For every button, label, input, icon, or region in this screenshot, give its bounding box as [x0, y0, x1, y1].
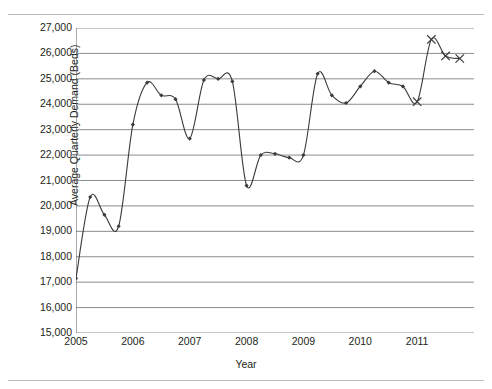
y-tick-label: 27,000	[20, 22, 72, 33]
y-tick-label: 22,000	[20, 149, 72, 160]
data-point-actual	[88, 195, 92, 199]
data-point-actual	[301, 153, 305, 157]
x-tick-label: 2010	[340, 336, 380, 347]
top-divider-rule	[8, 14, 484, 15]
y-tick-label: 23,000	[20, 124, 72, 135]
data-point-actual	[76, 276, 78, 280]
data-point-actual	[117, 224, 121, 228]
data-point-actual	[372, 69, 376, 73]
y-tick-label: 26,000	[20, 47, 72, 58]
x-tick-label: 2009	[283, 336, 323, 347]
y-tick-label: 17,000	[20, 276, 72, 287]
chart-figure: 27,00026,00025,00024,00023,00022,00021,0…	[0, 0, 492, 389]
x-tick-label: 2008	[227, 336, 267, 347]
gridlines	[76, 28, 474, 333]
data-point-actual	[287, 156, 291, 160]
x-axis-title: Year	[0, 358, 492, 370]
data-point-actual	[230, 79, 234, 83]
y-tick-label: 20,000	[20, 200, 72, 211]
x-tick-label: 2007	[170, 336, 210, 347]
data-point-actual	[244, 183, 248, 187]
series-markers	[76, 35, 464, 280]
y-tick-label: 18,000	[20, 251, 72, 262]
data-point-forecast	[427, 35, 435, 43]
x-tick-label: 2006	[113, 336, 153, 347]
data-point-actual	[131, 122, 135, 126]
y-tick-label: 16,000	[20, 302, 72, 313]
data-point-actual	[216, 77, 220, 81]
y-tick-label: 25,000	[20, 73, 72, 84]
series-line	[76, 38, 460, 279]
x-tick-label: 2005	[56, 336, 96, 347]
x-tick-label: 2011	[397, 336, 437, 347]
bottom-divider-rule	[8, 380, 484, 381]
y-axis-tick-labels: 27,00026,00025,00024,00023,00022,00021,0…	[16, 0, 72, 389]
plot-area	[76, 28, 474, 333]
y-tick-label: 21,000	[20, 175, 72, 186]
y-tick-label: 24,000	[20, 98, 72, 109]
plot-svg	[76, 28, 474, 333]
y-tick-label: 19,000	[20, 225, 72, 236]
